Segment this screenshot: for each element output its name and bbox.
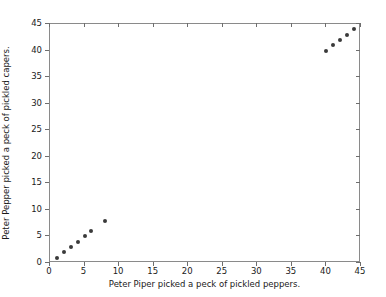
scatter-plot-figure: 051015202530354045 051015202530354045 Pe… xyxy=(0,0,386,297)
y-tick xyxy=(45,209,49,210)
data-point xyxy=(352,27,356,31)
data-point xyxy=(331,43,335,47)
y-tick-right xyxy=(356,129,360,130)
data-point xyxy=(69,245,73,249)
data-point xyxy=(103,219,107,223)
data-point xyxy=(83,234,87,238)
y-tick-right xyxy=(356,156,360,157)
data-point xyxy=(345,33,349,37)
y-tick xyxy=(45,129,49,130)
data-point xyxy=(55,256,59,260)
x-tick-top xyxy=(153,23,154,27)
y-axis-label-text: Peter Pepper picked a peck of pickled ca… xyxy=(1,46,11,239)
x-tick-top xyxy=(84,23,85,27)
x-tick-top xyxy=(325,23,326,27)
y-tick-right xyxy=(356,235,360,236)
y-tick-right xyxy=(356,182,360,183)
x-tick-top xyxy=(187,23,188,27)
y-tick xyxy=(45,103,49,104)
y-tick-right xyxy=(356,76,360,77)
data-point xyxy=(338,38,342,42)
x-tick-top xyxy=(256,23,257,27)
x-tick-label: 20 xyxy=(182,266,193,276)
y-tick xyxy=(45,156,49,157)
x-tick-top xyxy=(49,23,50,27)
data-point xyxy=(76,240,80,244)
x-tick-label: 10 xyxy=(113,266,124,276)
x-tick-label: 15 xyxy=(147,266,158,276)
x-tick-top xyxy=(118,23,119,27)
data-point xyxy=(62,250,66,254)
x-axis-label: Peter Piper picked a peck of pickled pep… xyxy=(49,279,360,289)
y-tick xyxy=(45,262,49,263)
data-points-layer xyxy=(50,24,359,261)
x-tick-label: 35 xyxy=(285,266,296,276)
x-tick-top xyxy=(222,23,223,27)
plot-area xyxy=(49,23,360,262)
y-axis-label: Peter Pepper picked a peck of pickled ca… xyxy=(0,23,12,262)
y-tick xyxy=(45,50,49,51)
x-tick-label: 40 xyxy=(320,266,331,276)
x-tick-top xyxy=(291,23,292,27)
x-tick-label: 45 xyxy=(355,266,366,276)
y-tick-right xyxy=(356,103,360,104)
x-tick-top xyxy=(360,23,361,27)
x-tick-label: 5 xyxy=(81,266,86,276)
y-tick-right xyxy=(356,262,360,263)
data-point xyxy=(89,229,93,233)
x-tick-label: 30 xyxy=(251,266,262,276)
y-tick xyxy=(45,23,49,24)
y-tick xyxy=(45,235,49,236)
y-tick xyxy=(45,76,49,77)
y-tick-right xyxy=(356,209,360,210)
y-tick-right xyxy=(356,23,360,24)
x-tick-label: 25 xyxy=(216,266,227,276)
data-point xyxy=(324,49,328,53)
x-tick-label: 0 xyxy=(46,266,51,276)
y-tick-right xyxy=(356,50,360,51)
y-tick xyxy=(45,182,49,183)
